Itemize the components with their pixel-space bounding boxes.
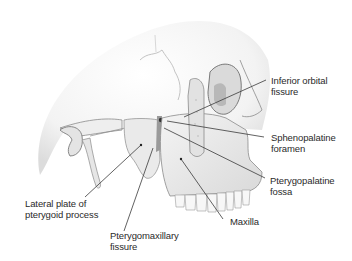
- label-sphenopalatine-foramen: Sphenopalatine foramen: [271, 132, 336, 154]
- pterygoid-process: [124, 119, 160, 179]
- label-line: fissure: [271, 86, 327, 97]
- label-maxilla: Maxilla: [230, 216, 259, 227]
- label-line: Lateral plate of: [25, 198, 98, 209]
- skull-diagram: Inferior orbital fissure Sphenopalatine …: [0, 0, 352, 261]
- label-line: Pterygomaxillary: [110, 230, 179, 241]
- external-ear-region: [60, 127, 82, 156]
- label-line: Pterygopalatine: [270, 175, 335, 186]
- label-line: Maxilla: [230, 216, 259, 227]
- label-line: fossa: [270, 186, 335, 197]
- label-line: pterygoid process: [25, 209, 98, 220]
- label-line: Sphenopalatine: [271, 132, 336, 143]
- label-inferior-orbital-fissure: Inferior orbital fissure: [271, 75, 327, 97]
- label-line: foramen: [271, 143, 336, 154]
- ramus: [82, 138, 101, 188]
- label-pterygopalatine-fossa: Pterygopalatine fossa: [270, 175, 335, 197]
- label-line: fissure: [110, 241, 179, 252]
- skull-illustration: [0, 0, 352, 261]
- label-pterygomaxillary-fissure: Pterygomaxillary fissure: [110, 230, 179, 252]
- zygomatic-bone: [188, 79, 204, 157]
- label-lateral-plate-of-pterygoid-process: Lateral plate of pterygoid process: [25, 198, 98, 220]
- label-line: Inferior orbital: [271, 75, 327, 86]
